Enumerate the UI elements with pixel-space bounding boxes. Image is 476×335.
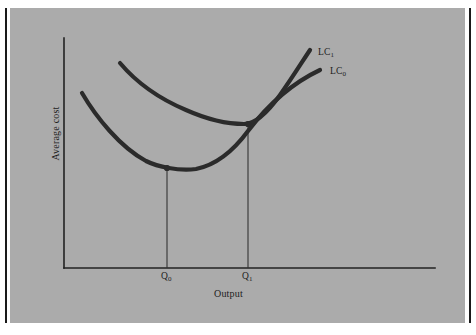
- curve-label-lc0-text: LC: [330, 66, 343, 76]
- q1-minimum-marker: [245, 121, 251, 127]
- x-tick-label-q1: Q1: [242, 271, 253, 281]
- x-tick-label-q0-subscript: 0: [168, 275, 172, 283]
- x-axis-title: Output: [214, 288, 243, 299]
- curve-label-lc1-subscript: 1: [331, 51, 335, 59]
- q0-minimum-marker: [164, 165, 170, 171]
- curve-lc1: [120, 50, 310, 124]
- curve-lc0: [82, 70, 320, 170]
- x-tick-label-q0-text: Q: [161, 271, 168, 281]
- curve-label-lc0-subscript: 0: [343, 70, 347, 78]
- figure-canvas: LC1 LC0 Q0 Q1 Output Average cost: [0, 0, 476, 335]
- y-axis-title: Average cost: [50, 84, 61, 184]
- curve-label-lc1-text: LC: [318, 47, 331, 57]
- curve-label-lc1: LC1: [318, 47, 334, 57]
- cost-curve-plot: [0, 0, 476, 335]
- x-tick-label-q1-text: Q: [242, 271, 249, 281]
- x-tick-label-q0: Q0: [161, 271, 172, 281]
- x-tick-label-q1-subscript: 1: [249, 275, 253, 283]
- curve-label-lc0: LC0: [330, 66, 346, 76]
